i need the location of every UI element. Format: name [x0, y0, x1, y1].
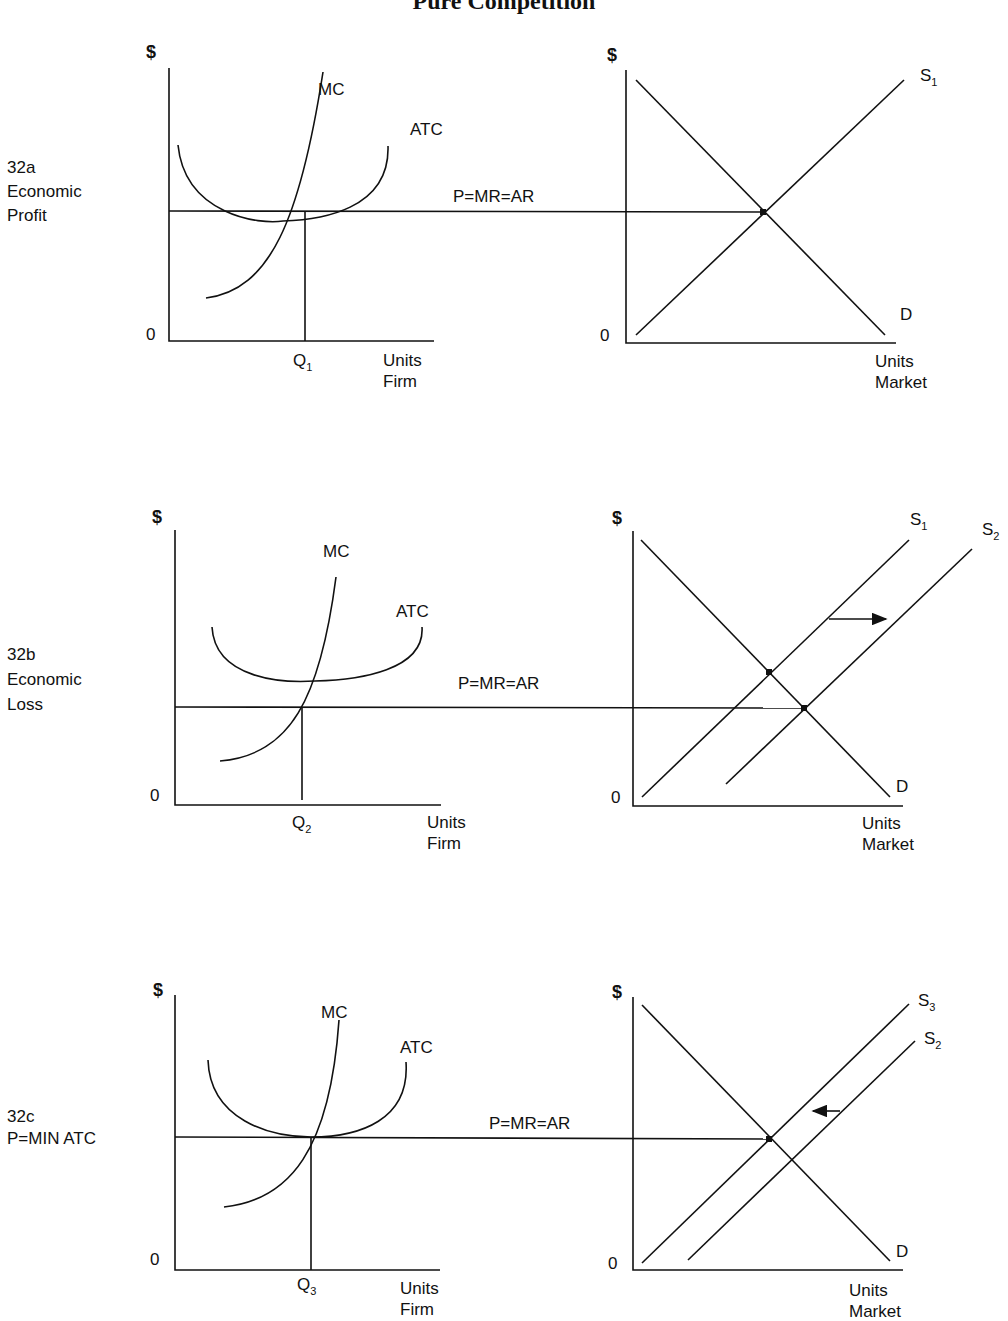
- supply-label: S1: [920, 65, 937, 93]
- x-axis-label: Units Firm: [427, 812, 466, 854]
- x-axis-label: Units Market: [875, 351, 927, 393]
- q-letter: Q: [297, 1275, 310, 1294]
- atc-label: ATC: [410, 119, 443, 140]
- x-axis-label: Units Firm: [383, 350, 422, 392]
- panel-id: 32a: [7, 156, 82, 180]
- panel-id: 32c: [7, 1106, 96, 1128]
- atc-curve: [212, 627, 422, 681]
- x-axis-label-line: Firm: [383, 371, 422, 392]
- equilibrium-point: [760, 209, 766, 215]
- mc-label: MC: [318, 79, 344, 100]
- supply-letter: S: [918, 991, 929, 1010]
- x-axis-label: Units Firm: [400, 1278, 439, 1320]
- price-line-label: P=MR=AR: [458, 673, 539, 694]
- price-line-label: P=MR=AR: [453, 186, 534, 207]
- panel-32a-firm-graph: [169, 68, 434, 341]
- mc-label: MC: [323, 541, 349, 562]
- supply-label: S1: [910, 509, 927, 537]
- x-axis-label-line: Units: [427, 812, 466, 833]
- panel-32c-market-graph: [633, 997, 915, 1270]
- x-axis-label: Units Market: [862, 813, 914, 855]
- price-line: [175, 1137, 769, 1139]
- atc-label: ATC: [396, 601, 429, 622]
- atc-curve: [208, 1060, 406, 1137]
- q-subscript: 1: [306, 361, 312, 373]
- panel-caption-line: Economic: [7, 180, 82, 204]
- mc-curve: [220, 577, 336, 761]
- supply-letter: S: [982, 520, 993, 539]
- demand-curve: [636, 80, 885, 335]
- panel-label: 32a Economic Profit: [7, 156, 82, 228]
- panel-caption-line: Profit: [7, 204, 82, 228]
- demand-curve: [641, 540, 890, 797]
- x-axis-label-line: Units: [383, 350, 422, 371]
- x-axis-label-line: Units: [849, 1280, 901, 1301]
- origin-label: 0: [600, 325, 609, 346]
- x-axis-label: Units Market: [849, 1280, 901, 1321]
- price-line: [169, 211, 763, 212]
- origin-label: 0: [608, 1253, 617, 1274]
- y-axis-label: $: [146, 42, 156, 63]
- supply-curve-s2: [688, 1041, 915, 1260]
- x-axis-label-line: Firm: [427, 833, 466, 854]
- panel-32b-firm-graph: [175, 530, 441, 805]
- supply-curve-s3: [642, 1004, 909, 1263]
- y-axis-label: $: [612, 982, 622, 1003]
- demand-curve: [642, 1005, 890, 1261]
- supply-label: S2: [982, 519, 999, 547]
- panel-caption-line: Economic: [7, 667, 82, 692]
- x-axis-label-line: Market: [875, 372, 927, 393]
- q-subscript: 2: [305, 823, 311, 835]
- panel-caption-line: Loss: [7, 692, 82, 717]
- panel-32a-market-graph: [626, 70, 904, 343]
- demand-label: D: [900, 304, 912, 325]
- panel-label: 32b Economic Loss: [7, 642, 82, 717]
- equilibrium-point: [766, 669, 772, 675]
- x-axis-label-line: Market: [862, 834, 914, 855]
- demand-label: D: [896, 1241, 908, 1262]
- origin-label: 0: [150, 785, 159, 806]
- atc-curve: [178, 145, 388, 222]
- price-line-label: P=MR=AR: [489, 1113, 570, 1134]
- atc-label: ATC: [400, 1037, 433, 1058]
- panel-label: 32c P=MIN ATC: [7, 1106, 96, 1150]
- price-line: [175, 707, 804, 708]
- mc-label: MC: [321, 1002, 347, 1023]
- q-label: Q1: [293, 350, 312, 378]
- supply-letter: S: [924, 1029, 935, 1048]
- supply-curve-s1: [636, 80, 904, 335]
- panel-id: 32b: [7, 642, 82, 667]
- q-letter: Q: [292, 813, 305, 832]
- x-axis-label-line: Units: [875, 351, 927, 372]
- y-axis-label: $: [612, 508, 622, 529]
- x-axis-label-line: Market: [849, 1301, 901, 1321]
- y-axis-label: $: [153, 980, 163, 1001]
- origin-label: 0: [146, 324, 155, 345]
- mc-curve: [224, 1020, 339, 1207]
- supply-curve-s1: [642, 540, 909, 797]
- x-axis-label-line: Units: [862, 813, 914, 834]
- q-label: Q2: [292, 812, 311, 840]
- q-letter: Q: [293, 351, 306, 370]
- origin-label: 0: [150, 1249, 159, 1270]
- equilibrium-point: [801, 705, 807, 711]
- supply-subscript: 3: [929, 1001, 935, 1013]
- supply-subscript: 2: [935, 1039, 941, 1051]
- panel-32b-market-graph: [633, 531, 972, 806]
- supply-letter: S: [910, 510, 921, 529]
- x-axis-label-line: Firm: [400, 1299, 439, 1320]
- supply-subscript: 1: [931, 76, 937, 88]
- demand-label: D: [896, 776, 908, 797]
- supply-label: S3: [918, 990, 935, 1018]
- q-label: Q3: [297, 1274, 316, 1302]
- firm-axes: [169, 68, 434, 341]
- supply-label: S2: [924, 1028, 941, 1056]
- panel-caption-line: P=MIN ATC: [7, 1128, 96, 1150]
- q-subscript: 3: [310, 1285, 316, 1297]
- y-axis-label: $: [607, 45, 617, 66]
- supply-subscript: 2: [993, 530, 999, 542]
- market-axes: [633, 531, 903, 806]
- equilibrium-point: [766, 1136, 772, 1142]
- x-axis-label-line: Units: [400, 1278, 439, 1299]
- supply-subscript: 1: [921, 520, 927, 532]
